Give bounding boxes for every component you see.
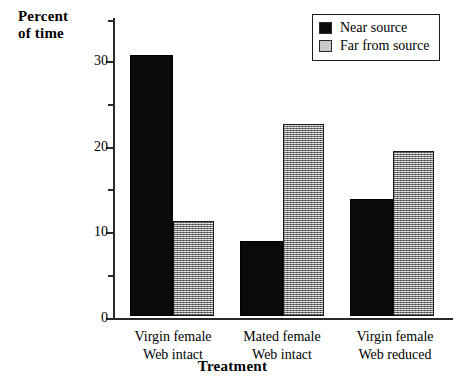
legend-item-far-from-source[interactable]: Far from source (319, 37, 429, 55)
bar-far-from-source-virgin-female-web-reduced[interactable] (393, 151, 434, 316)
x-axis-line (113, 318, 453, 320)
plot-area: 0 10 20 30 (113, 18, 453, 318)
y-tick-label-0: 0 (101, 310, 108, 326)
x-axis-title: Treatment (0, 358, 465, 375)
legend-swatch-near-source-icon (319, 22, 332, 34)
legend: Near source Far from source (312, 14, 440, 61)
legend-label-far-from-source: Far from source (340, 38, 429, 54)
y-tick-label-10: 10 (94, 224, 108, 240)
bar-far-from-source-virgin-female-web-intact[interactable] (173, 221, 214, 316)
legend-item-near-source[interactable]: Near source (319, 19, 429, 37)
bar-near-source-virgin-female-web-reduced[interactable] (350, 199, 393, 316)
y-tick-label-20: 20 (94, 139, 108, 155)
y-axis-line (113, 18, 115, 319)
legend-swatch-far-from-source-icon (319, 40, 332, 52)
bar-chart-figure: Percent of time 0 10 20 30 (0, 0, 465, 385)
bar-near-source-virgin-female-web-intact[interactable] (130, 55, 173, 316)
y-axis-title: Percent of time (18, 8, 68, 42)
legend-label-near-source: Near source (340, 20, 407, 36)
bar-far-from-source-mated-female-web-intact[interactable] (283, 124, 324, 316)
y-tick-label-30: 30 (94, 53, 108, 69)
bar-near-source-mated-female-web-intact[interactable] (240, 241, 283, 316)
